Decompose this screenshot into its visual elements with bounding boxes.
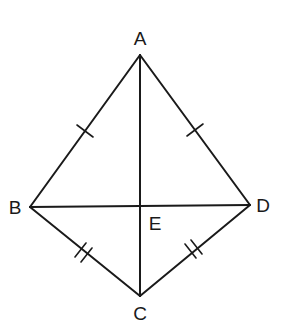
tick-mark-ab <box>77 125 93 137</box>
label-e: E <box>149 213 162 234</box>
label-d: D <box>256 195 270 216</box>
kite-diagram: A B D E C <box>0 0 294 327</box>
label-b: B <box>9 197 22 218</box>
tick-mark-ad <box>187 124 203 136</box>
segment-bc <box>30 207 140 296</box>
double-tick-mark-dc <box>185 240 202 258</box>
label-c: C <box>133 303 147 324</box>
label-a: A <box>134 28 147 49</box>
diagonal-bd <box>30 205 250 207</box>
